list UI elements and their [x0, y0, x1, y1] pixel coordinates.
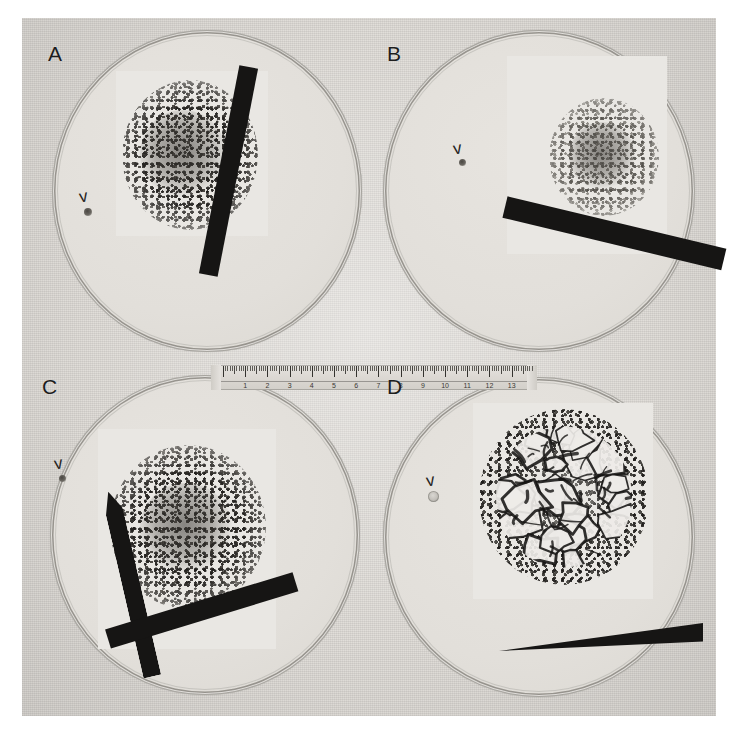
ruler-tick-minor: [478, 366, 479, 374]
ruler-number: 11: [464, 382, 471, 389]
ruler-tick-minor: [469, 366, 470, 371]
ruler-tick-major: [223, 366, 224, 377]
ruler-tick-minor: [501, 366, 502, 374]
ruler-tick-minor: [463, 366, 464, 371]
ruler-tick-minor: [227, 366, 228, 371]
ruler-tick-minor: [521, 366, 522, 371]
ruler-number: 2: [265, 382, 269, 389]
ruler-tick-minor: [327, 366, 328, 371]
ruler-tick-minor: [352, 366, 353, 371]
ruler-number: 13: [508, 382, 516, 389]
ruler-tick-minor: [529, 366, 530, 371]
ruler-tick-minor: [390, 366, 391, 374]
ruler-tick-minor: [343, 366, 344, 371]
isolated-colony-d: [428, 491, 439, 502]
ruler-tick-minor: [461, 366, 462, 371]
ruler-tick-minor: [270, 366, 271, 371]
ruler-tick-minor: [301, 366, 302, 374]
ruler-tick-minor: [509, 366, 510, 371]
ruler-tick-minor: [376, 366, 377, 371]
ruler-tick-minor: [276, 366, 277, 371]
ruler-tick-minor: [256, 366, 257, 374]
panel-a: A v: [22, 18, 369, 367]
ruler-tick-minor: [396, 366, 397, 371]
ruler-tick-minor: [447, 366, 448, 371]
ruler-tick-minor: [358, 366, 359, 371]
panel-label-a: A: [48, 42, 63, 66]
ruler-tick-minor: [398, 366, 399, 371]
ruler-tick-minor: [323, 366, 324, 374]
ruler-tick-minor: [503, 366, 504, 371]
ruler-tick-minor: [381, 366, 382, 371]
ruler-tick-minor: [321, 366, 322, 371]
ruler-tick-minor: [259, 366, 260, 371]
ruler-tick-minor: [374, 366, 375, 371]
ruler-tick-minor: [487, 366, 488, 371]
ruler-tick-minor: [532, 366, 533, 371]
ruler-tick-minor: [394, 366, 395, 371]
ruler-tick-minor: [365, 366, 366, 371]
ruler-tick-minor: [403, 366, 404, 371]
ruler-tick-minor: [299, 366, 300, 371]
ruler-tick-minor: [505, 366, 506, 371]
ruler-tick-minor: [416, 366, 417, 371]
ruler-tick-minor: [476, 366, 477, 371]
ruler-number: 3: [288, 382, 292, 389]
ruler-tick-minor: [274, 366, 275, 371]
ruler-cap-left: [211, 365, 221, 390]
ruler-tick-minor: [341, 366, 342, 371]
ruler-tick-minor: [441, 366, 442, 371]
ruler-number: 1: [243, 382, 247, 389]
ruler-tick-minor: [443, 366, 444, 371]
ruler-tick-minor: [481, 366, 482, 371]
ruler-tick-minor: [474, 366, 475, 371]
ruler-number: 6: [354, 382, 358, 389]
ruler-tick-minor: [507, 366, 508, 371]
ruler-tick-minor: [407, 366, 408, 371]
ruler-tick-minor: [318, 366, 319, 371]
ruler-tick-minor: [363, 366, 364, 371]
ruler-number: 9: [421, 382, 425, 389]
ruler-tick-minor: [370, 366, 371, 371]
ruler-tick-minor: [243, 366, 244, 371]
ruler-tick-major: [445, 366, 446, 377]
ruler-tick-major: [512, 366, 513, 377]
isolated-colony-b: [459, 159, 466, 166]
ruler-tick-minor: [456, 366, 457, 374]
arrowhead-marker-b: v: [452, 139, 463, 157]
ruler-tick-minor: [325, 366, 326, 371]
ruler-tick-minor: [430, 366, 431, 371]
ruler-tick-minor: [496, 366, 497, 371]
ruler-tick-minor: [387, 366, 388, 371]
ruler-tick-minor: [372, 366, 373, 371]
ruler-number: 4: [310, 382, 314, 389]
ruler-tick-minor: [332, 366, 333, 371]
ruler-tick-minor: [316, 366, 317, 371]
ruler-tick-minor: [458, 366, 459, 371]
ruler-tick-minor: [361, 366, 362, 371]
ruler-tick-minor: [239, 366, 240, 371]
ruler-tick-minor: [392, 366, 393, 371]
panel-c: C v: [22, 367, 369, 716]
ruler-tick-minor: [523, 366, 524, 374]
panel-d: D v: [369, 367, 716, 716]
ruler-number: 7: [376, 382, 380, 389]
ruler-tick-minor: [354, 366, 355, 371]
ruler-tick-minor: [483, 366, 484, 371]
ruler-tick-major: [267, 366, 268, 377]
ruler-tick-minor: [410, 366, 411, 371]
ruler-tick-minor: [285, 366, 286, 371]
colony-halo-d: [479, 409, 649, 585]
ruler-tick-minor: [421, 366, 422, 371]
arrowhead-marker-c: v: [53, 454, 64, 472]
ruler-tick-minor: [516, 366, 517, 371]
ruler-tick-major: [290, 366, 291, 377]
ruler-tick-minor: [472, 366, 473, 371]
ruler-tick-minor: [283, 366, 284, 371]
ruler-tick-minor: [527, 366, 528, 371]
scale-ruler: 12345678910111213: [211, 365, 537, 390]
ruler-tick-minor: [241, 366, 242, 371]
ruler-tick-minor: [307, 366, 308, 371]
panel-label-d: D: [387, 375, 403, 399]
arrowhead-marker-d: v: [425, 471, 436, 489]
